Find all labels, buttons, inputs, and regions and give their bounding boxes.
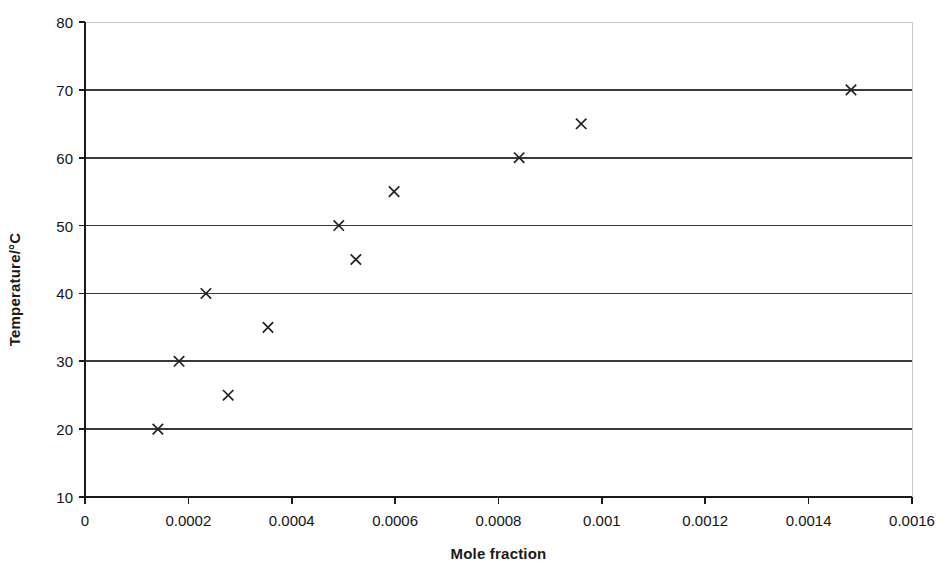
data-markers xyxy=(153,85,857,435)
data-point-marker xyxy=(263,322,273,332)
data-point-marker xyxy=(223,390,233,400)
axis-lines xyxy=(85,22,912,497)
data-point-marker xyxy=(576,119,586,129)
axis-ticks xyxy=(79,22,912,504)
scatter-chart: Temperature/°C Mole fraction 10203040506… xyxy=(0,0,947,579)
data-point-marker xyxy=(389,186,399,196)
gridlines xyxy=(85,22,912,497)
data-point-marker xyxy=(351,254,361,264)
plot-area xyxy=(0,0,947,579)
